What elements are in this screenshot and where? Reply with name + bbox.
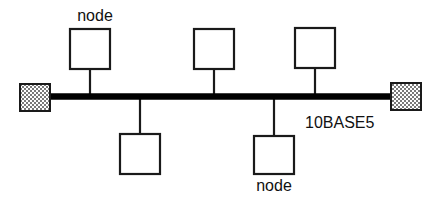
node-stems (90, 68, 315, 136)
left-terminator (20, 84, 50, 111)
node-top-1-label: node (77, 7, 113, 24)
topology-canvas: node node 10BASE5 (0, 0, 441, 198)
right-terminator-body (391, 83, 421, 110)
left-terminator-body (20, 84, 50, 111)
right-terminator (391, 83, 421, 110)
node-bottom-2-box (254, 136, 294, 174)
bus-cable-label: 10BASE5 (305, 114, 374, 131)
node-boxes (70, 28, 335, 174)
node-top-1-box (70, 29, 110, 69)
node-bottom-1-box (120, 134, 160, 174)
network-topology-diagram: node node 10BASE5 (0, 0, 441, 198)
node-top-3-box (295, 28, 335, 68)
node-bottom-2-label: node (256, 177, 292, 194)
node-top-2-box (194, 29, 234, 69)
